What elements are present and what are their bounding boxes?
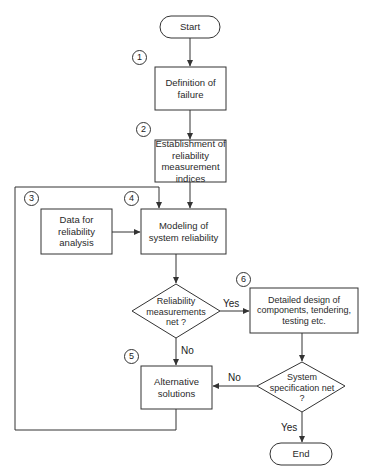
- end-terminal: End: [270, 443, 332, 465]
- detailed-design-box-label: Detailed design of components, tendering…: [256, 288, 352, 333]
- reliability-no-label: No: [181, 345, 194, 356]
- start-terminal: Start: [160, 16, 220, 38]
- data-for-reliability-box: Data for reliability analysis: [45, 209, 108, 254]
- step-number-5: 5: [124, 349, 139, 364]
- system-no-label: No: [228, 372, 241, 383]
- reliability-decision: Reliability measurements net ?: [140, 290, 212, 334]
- modeling-box-label: Modeling of system reliability: [148, 209, 219, 254]
- step-number-4: 4: [124, 191, 139, 206]
- step-number-6: 6: [236, 272, 251, 287]
- step-number-3: 3: [24, 191, 39, 206]
- system-decision: System specification net ?: [266, 366, 338, 410]
- definition-of-failure-box: Definition of failure: [160, 67, 221, 110]
- step-number-1: 1: [132, 50, 147, 65]
- alternative-solutions-box: Alternative solutions: [148, 366, 205, 409]
- establishment-box-label: Establishment of reliability measurement…: [155, 140, 226, 182]
- reliability-yes-label: Yes: [223, 298, 239, 309]
- system-yes-label: Yes: [281, 422, 297, 433]
- step-number-2: 2: [136, 122, 151, 137]
